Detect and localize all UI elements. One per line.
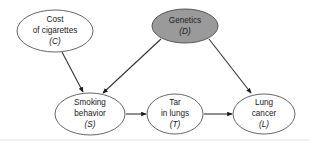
node-label-genetics: Genetics [169, 16, 201, 25]
node-cost-of-cigarettes[interactable]: Costof cigarettes(C) [17, 10, 93, 52]
node-label-cost-of-cigarettes: Cost [47, 15, 65, 24]
node-tar-in-lungs[interactable]: Tarin lungs(T) [147, 94, 203, 134]
node-label-tar-in-lungs: in lungs [161, 109, 189, 118]
causal-diagram-canvas: Costof cigarettes(C)Genetics(D)Smokingbe… [0, 0, 310, 146]
node-label-smoking-behavior: behavior [74, 109, 106, 118]
node-label-lung-cancer: cancer [252, 109, 277, 118]
node-label-smoking-behavior: Smoking [74, 98, 106, 107]
edge-genetics-to-lung [209, 39, 251, 93]
node-smoking-behavior[interactable]: Smokingbehavior(S) [55, 93, 125, 135]
node-variable-genetics: (D) [179, 27, 191, 36]
node-genetics[interactable]: Genetics(D) [152, 9, 218, 43]
node-label-lung-cancer: Lung [255, 98, 274, 107]
edge-cost-to-smoking [62, 52, 83, 92]
nodes-layer: Costof cigarettes(C)Genetics(D)Smokingbe… [17, 9, 295, 135]
node-variable-lung-cancer: (L) [259, 120, 269, 129]
causal-dag-svg: Costof cigarettes(C)Genetics(D)Smokingbe… [0, 0, 310, 146]
edge-genetics-to-smoking [103, 39, 161, 93]
node-variable-tar-in-lungs: (T) [170, 120, 181, 129]
node-variable-cost-of-cigarettes: (C) [49, 37, 61, 46]
node-variable-smoking-behavior: (S) [85, 120, 96, 129]
node-lung-cancer[interactable]: Lungcancer(L) [233, 94, 295, 134]
node-label-tar-in-lungs: Tar [169, 98, 181, 107]
node-label-cost-of-cigarettes: of cigarettes [33, 26, 78, 35]
